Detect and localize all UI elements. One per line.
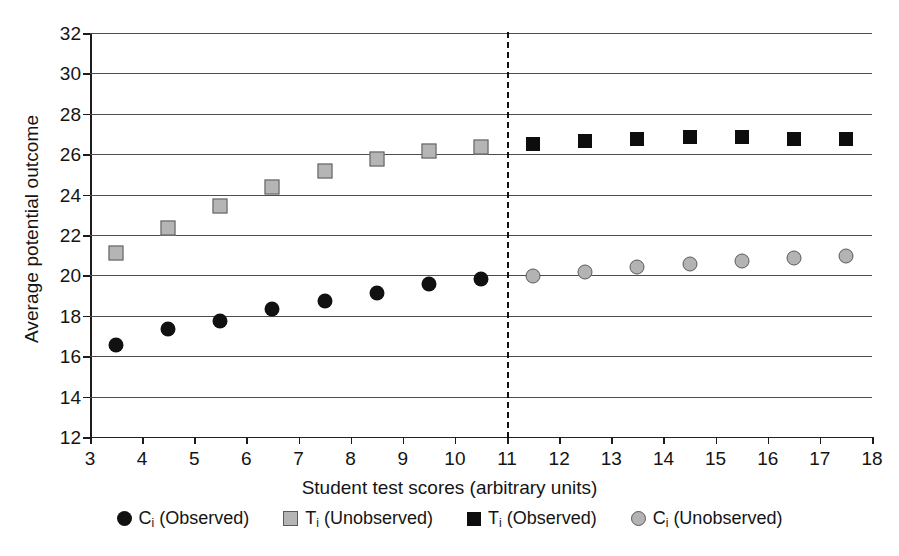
data-point-s3-0 (526, 269, 541, 284)
x-axis-title: Student test scores (arbitrary units) (0, 477, 899, 499)
data-point-s0-5 (369, 285, 384, 300)
y-axis-title: Average potential outcome (21, 49, 43, 409)
chart-figure: Average potential outcome 12141618202224… (0, 0, 899, 556)
x-tick-13 (611, 437, 613, 444)
data-point-s1-7 (474, 140, 489, 155)
data-point-s1-6 (421, 144, 436, 159)
gridline-y-22 (90, 235, 872, 236)
y-tick-12 (83, 437, 90, 439)
y-tick-label-28: 28 (60, 104, 81, 123)
x-tick-9 (403, 437, 405, 444)
x-tick-17 (820, 437, 822, 444)
y-tick-14 (83, 397, 90, 399)
data-point-s2-1 (578, 134, 592, 148)
x-tick-label-17: 17 (809, 449, 830, 468)
data-point-s3-2 (630, 260, 645, 275)
x-tick-14 (663, 437, 665, 444)
x-tick-12 (559, 437, 561, 444)
x-tick-label-3: 3 (85, 449, 96, 468)
y-tick-label-32: 32 (60, 24, 81, 43)
data-point-s1-0 (109, 246, 124, 261)
x-tick-8 (351, 437, 353, 444)
y-tick-20 (83, 275, 90, 277)
legend-item-0[interactable]: Ci (Observed) (117, 508, 250, 529)
data-point-s1-5 (369, 152, 384, 167)
legend-label-2: Ti (Observed) (488, 508, 597, 529)
chart-legend: Ci (Observed)Ti (Unobserved)Ti (Observed… (0, 508, 899, 529)
cutoff-line-line (507, 32, 509, 438)
data-point-s0-0 (109, 338, 124, 353)
black-square-swatch (467, 512, 481, 526)
x-tick-label-14: 14 (653, 449, 674, 468)
legend-item-2[interactable]: Ti (Observed) (467, 508, 597, 529)
gridline-y-14 (90, 397, 872, 398)
y-tick-label-12: 12 (60, 428, 81, 447)
data-point-s3-3 (682, 257, 697, 272)
x-tick-label-16: 16 (757, 449, 778, 468)
y-tick-18 (83, 316, 90, 318)
y-tick-30 (83, 73, 90, 75)
x-tick-label-8: 8 (345, 449, 356, 468)
y-tick-label-26: 26 (60, 145, 81, 164)
data-point-s2-6 (839, 132, 853, 146)
y-tick-24 (83, 195, 90, 197)
x-tick-5 (194, 437, 196, 444)
x-tick-label-5: 5 (189, 449, 200, 468)
x-tick-6 (246, 437, 248, 444)
x-tick-15 (716, 437, 718, 444)
x-tick-11 (507, 437, 509, 444)
data-point-s0-7 (474, 272, 489, 287)
x-tick-10 (455, 437, 457, 444)
x-tick-16 (768, 437, 770, 444)
gridline-y-24 (90, 195, 872, 196)
data-point-s3-5 (786, 251, 801, 266)
gridline-y-28 (90, 114, 872, 115)
data-point-s2-0 (526, 137, 540, 151)
y-tick-label-14: 14 (60, 387, 81, 406)
x-tick-7 (299, 437, 301, 444)
x-tick-label-11: 11 (497, 449, 517, 468)
y-tick-22 (83, 235, 90, 237)
x-tick-label-12: 12 (549, 449, 570, 468)
y-tick-16 (83, 356, 90, 358)
x-tick-label-6: 6 (241, 449, 252, 468)
y-tick-26 (83, 154, 90, 156)
data-point-s2-4 (735, 130, 749, 144)
data-point-s2-5 (787, 132, 801, 146)
x-tick-18 (872, 437, 874, 444)
data-point-s2-3 (683, 130, 697, 144)
x-tick-label-9: 9 (398, 449, 409, 468)
data-point-s0-4 (317, 293, 332, 308)
plot-area: 1214161820222426283032345678910111213141… (90, 33, 872, 437)
legend-item-1[interactable]: Ti (Unobserved) (283, 508, 433, 529)
y-tick-label-16: 16 (60, 347, 81, 366)
legend-label-3: Ci (Unobserved) (653, 508, 783, 529)
data-point-s0-2 (213, 313, 228, 328)
x-tick-4 (142, 437, 144, 444)
y-tick-label-20: 20 (60, 266, 81, 285)
gridline-y-32 (90, 33, 872, 34)
data-point-s1-3 (265, 179, 280, 194)
x-tick-label-10: 10 (444, 449, 465, 468)
data-point-s1-2 (213, 198, 228, 213)
x-tick-3 (90, 437, 92, 444)
legend-label-0: Ci (Observed) (139, 508, 250, 529)
data-point-s1-1 (161, 220, 176, 235)
data-point-s3-1 (578, 265, 593, 280)
data-point-s0-1 (161, 321, 176, 336)
y-tick-32 (83, 33, 90, 35)
legend-item-3[interactable]: Ci (Unobserved) (631, 508, 783, 529)
y-tick-28 (83, 114, 90, 116)
y-tick-label-22: 22 (60, 226, 81, 245)
x-tick-label-15: 15 (705, 449, 726, 468)
data-point-s1-4 (317, 164, 332, 179)
gray-circle-swatch (631, 511, 646, 526)
gridline-y-12 (90, 437, 872, 438)
gray-square-swatch (283, 511, 298, 526)
gridline-y-18 (90, 316, 872, 317)
data-point-s3-6 (838, 249, 853, 264)
y-tick-label-18: 18 (60, 306, 81, 325)
legend-label-1: Ti (Unobserved) (305, 508, 433, 529)
x-tick-label-13: 13 (601, 449, 622, 468)
data-point-s3-4 (734, 254, 749, 269)
